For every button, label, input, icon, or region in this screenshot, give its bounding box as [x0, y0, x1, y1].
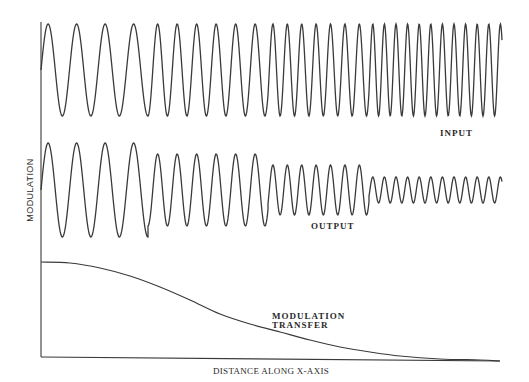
output-label: OUTPUT: [311, 222, 355, 231]
output-wave: [41, 143, 502, 237]
mtf-label-line2: TRANSFER: [272, 321, 329, 330]
modulation-transfer-diagram: [0, 0, 529, 382]
input-wave: [41, 24, 502, 116]
modulation-transfer-curve: [41, 262, 500, 361]
y-axis-label: MODULATION: [25, 158, 35, 221]
input-label: INPUT: [440, 129, 473, 138]
x-axis-label: DISTANCE ALONG X-AXIS: [213, 366, 329, 376]
